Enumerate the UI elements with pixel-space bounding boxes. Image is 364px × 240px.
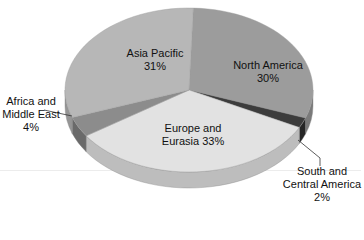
label-africa-middle-east: Africa and Middle East 4%: [0, 95, 62, 134]
label-europe-value: Eurasia 33%: [148, 135, 238, 148]
label-south-america-name-1: South and: [280, 165, 364, 178]
label-south-america-value: 2%: [280, 191, 364, 204]
label-south-america-name-2: Central America: [280, 178, 364, 191]
label-asia-pacific-name: Asia Pacific: [110, 47, 200, 60]
label-africa-value: 4%: [0, 121, 62, 134]
label-south-central-america: South and Central America 2%: [280, 165, 364, 204]
south-america-leader-line: [298, 140, 320, 166]
label-asia-pacific: Asia Pacific 31%: [110, 47, 200, 73]
label-north-america-name: North America: [218, 59, 318, 72]
label-north-america-value: 30%: [218, 72, 318, 85]
label-africa-name-1: Africa and: [0, 95, 62, 108]
label-africa-name-2: Middle East: [0, 108, 62, 121]
label-north-america: North America 30%: [218, 59, 318, 85]
label-asia-pacific-value: 31%: [110, 60, 200, 73]
label-europe-eurasia: Europe and Eurasia 33%: [148, 122, 238, 148]
label-europe-name: Europe and: [148, 122, 238, 135]
